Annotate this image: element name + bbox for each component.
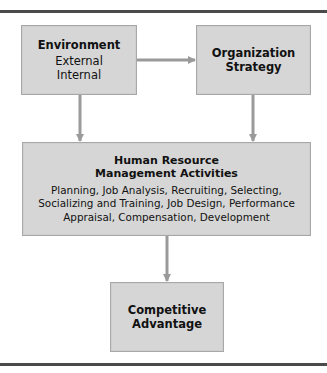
hrm-body-line2: Socializing and Training, Job Design, Pe… — [38, 197, 295, 211]
advantage-title-line2: Advantage — [132, 317, 202, 331]
hrm-title-line1: Human Resource — [114, 154, 219, 167]
hrm-activities-box: Human Resource Management Activities Pla… — [22, 142, 311, 236]
environment-item-external: External — [55, 54, 103, 68]
competitive-advantage-box: Competitive Advantage — [110, 282, 224, 352]
environment-box: Environment External Internal — [21, 25, 137, 95]
environment-item-internal: Internal — [55, 68, 103, 82]
organization-strategy-box: Organization Strategy — [196, 25, 311, 95]
environment-title: Environment — [38, 38, 121, 52]
advantage-title-line1: Competitive — [128, 303, 207, 317]
strategy-title-line2: Strategy — [225, 60, 281, 74]
hrm-title-line2: Management Activities — [95, 167, 238, 180]
hrm-body-line1: Planning, Job Analysis, Recruiting, Sele… — [38, 184, 295, 198]
hrm-body-line3: Appraisal, Compensation, Development — [38, 211, 295, 225]
bottom-rule — [0, 363, 327, 366]
strategy-title-line1: Organization — [212, 46, 296, 60]
